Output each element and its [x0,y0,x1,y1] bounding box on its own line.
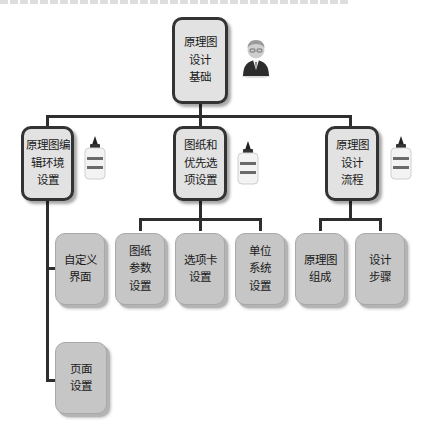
branch-3-line-3: 流程 [341,172,363,190]
connector-to-child-3-2 [379,218,382,231]
child-2-3-line-2: 系统 [249,260,271,278]
glue-bottle-icon [389,135,413,181]
branch-1-line-2: 辑环境 [31,155,64,173]
child-1-2-line-1: 页面 [70,361,92,379]
child-node-3-2: 设计 步骤 [355,233,405,305]
glue-bottle-icon [83,135,107,181]
branch-1-line-3: 设置 [37,172,59,190]
child-2-3-line-1: 单位 [249,243,271,261]
child-1-2-line-2: 设置 [70,378,92,396]
child-3-1-line-2: 组成 [309,269,331,287]
connector-branch-3-bus [319,218,381,221]
root-node-line-2: 设计 [189,52,211,70]
branch-node-2: 图纸和 优先选 项设置 [173,126,227,201]
branch-2-line-1: 图纸和 [184,137,217,155]
root-node-line-1: 原理图 [184,34,217,52]
child-node-1-2: 页面 设置 [55,342,107,414]
businessman-icon [240,36,272,78]
connector-branch-1-spine [46,200,49,381]
branch-3-line-2: 设计 [341,155,363,173]
branch-2-line-3: 项设置 [184,172,217,190]
child-2-2-line-2: 设置 [189,269,211,287]
child-3-2-line-1: 设计 [369,252,391,270]
branch-3-line-1: 原理图 [336,137,369,155]
child-node-2-2: 选项卡 设置 [175,233,225,305]
cropped-text-strip [0,0,350,4]
connector-to-child-2-3 [259,218,262,231]
connector-to-child-3-1 [319,218,322,231]
glue-bottle-icon [236,140,260,186]
child-2-3-line-3: 设置 [249,278,271,296]
connector-branch-3-down [349,200,352,220]
child-node-2-1: 图纸 参数 设置 [115,233,165,305]
connector-branch-2-down [199,200,202,220]
branch-node-3: 原理图 设计 流程 [325,126,379,201]
child-node-2-3: 单位 系统 设置 [235,233,285,305]
child-3-2-line-2: 步骤 [369,269,391,287]
branch-node-1: 原理图编 辑环境 设置 [21,126,74,201]
branch-1-line-1: 原理图编 [26,137,70,155]
child-3-1-line-1: 原理图 [304,252,337,270]
child-2-1-line-1: 图纸 [129,243,151,261]
child-node-1-1: 自定义 界面 [55,233,105,305]
child-2-2-line-1: 选项卡 [184,252,217,270]
connector-to-child-2-1 [139,218,142,231]
child-2-1-line-3: 设置 [129,278,151,296]
connector-to-child-2-2 [199,218,202,231]
root-node-line-3: 基础 [189,69,211,87]
child-2-1-line-2: 参数 [129,260,151,278]
child-1-1-line-1: 自定义 [64,252,97,270]
branch-2-line-2: 优先选 [184,155,217,173]
child-node-3-1: 原理图 组成 [295,233,345,305]
child-1-1-line-2: 界面 [69,269,91,287]
root-node: 原理图 设计 基础 [172,17,228,104]
